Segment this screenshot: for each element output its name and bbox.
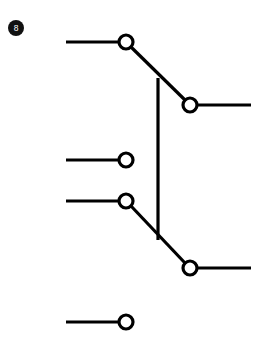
- terminal-node-c[interactable]: [119, 153, 133, 167]
- diagram-canvas: 8: [0, 0, 266, 343]
- terminal-node-f[interactable]: [119, 315, 133, 329]
- switch-diagram: [0, 0, 266, 343]
- terminal-node-b[interactable]: [183, 98, 197, 112]
- terminal-node-d[interactable]: [119, 194, 133, 208]
- step-number-badge: 8: [8, 20, 24, 36]
- terminal-node-a[interactable]: [119, 35, 133, 49]
- terminal-node-e[interactable]: [183, 261, 197, 275]
- step-number-label: 8: [14, 24, 19, 33]
- connector-lines-group: [131, 47, 185, 263]
